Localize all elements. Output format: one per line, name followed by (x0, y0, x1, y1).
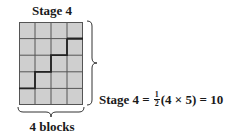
right-brace-icon (86, 20, 98, 106)
stage-title: Stage 4 (22, 3, 82, 19)
one-half-fraction: 1 2 (154, 91, 160, 108)
fraction-denominator: 2 (155, 100, 159, 108)
width-label: 4 blocks (22, 119, 82, 135)
equation-rhs: (4 × 5) = 10 (161, 92, 223, 108)
block-grid (19, 22, 83, 105)
grid-lines (19, 22, 83, 105)
bottom-brace-icon (17, 106, 85, 118)
area-equation: Stage 4 = 1 2 (4 × 5) = 10 (99, 91, 223, 108)
equation-lhs: Stage 4 = (99, 92, 150, 108)
